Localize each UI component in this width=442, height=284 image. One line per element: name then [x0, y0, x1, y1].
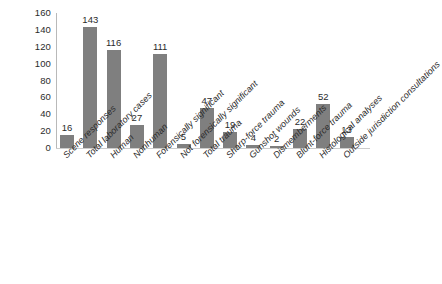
y-tick-label: 140	[0, 25, 51, 35]
y-tick-label: 80	[0, 76, 51, 86]
bar-group: 19	[223, 13, 237, 148]
bar-group: 52	[316, 13, 330, 148]
bar-group: 27	[130, 13, 144, 148]
bar-group: 22	[293, 13, 307, 148]
y-tick-label: 20	[0, 126, 51, 136]
bar[interactable]	[340, 137, 354, 148]
bar-value-label: 2	[274, 134, 279, 144]
bar[interactable]	[270, 146, 284, 148]
bar-value-label: 5	[181, 132, 186, 142]
bar-value-label: 143	[82, 15, 98, 25]
bar[interactable]	[107, 50, 121, 148]
bar-group: 13	[340, 13, 354, 148]
bar[interactable]	[153, 54, 167, 148]
bar[interactable]	[130, 125, 144, 148]
bar-value-label: 13	[341, 125, 352, 135]
y-tick-label: 100	[0, 59, 51, 69]
bar-value-label: 47	[202, 96, 213, 106]
y-tick-label: 160	[0, 8, 51, 18]
bar[interactable]	[223, 132, 237, 148]
bar[interactable]	[293, 129, 307, 148]
bar-value-label: 116	[106, 38, 121, 48]
y-tick-label: 0	[0, 143, 51, 153]
y-tick-label: 40	[0, 109, 51, 119]
bar-group: 116	[107, 13, 121, 148]
bar[interactable]	[246, 145, 260, 148]
bar[interactable]	[60, 135, 74, 149]
bar-group: 5	[177, 13, 191, 148]
bar-group: 2	[270, 13, 284, 148]
bar-group: 143	[83, 13, 97, 148]
y-tick-label: 60	[0, 92, 51, 102]
bar[interactable]	[200, 108, 214, 148]
bar-value-label: 52	[318, 92, 329, 102]
bar-value-label: 27	[132, 113, 143, 123]
y-tick-label: 120	[0, 42, 51, 52]
bar-value-label: 19	[225, 120, 236, 130]
bar[interactable]	[83, 27, 97, 148]
y-axis-tick-labels: 160140120100806040200	[0, 0, 51, 284]
bar-group: 47	[200, 13, 214, 148]
bar-value-label: 111	[153, 42, 167, 52]
bar-group: 4	[246, 13, 260, 148]
bar-value-label: 16	[62, 123, 73, 133]
bar[interactable]	[316, 104, 330, 148]
x-axis-line	[56, 148, 370, 149]
bar-group: 16	[60, 13, 74, 148]
bar[interactable]	[177, 144, 191, 148]
bar-value-label: 22	[295, 117, 306, 127]
plot-area: 16143116271115471942225213	[57, 13, 370, 148]
bar-value-label: 4	[251, 133, 256, 143]
bar-group: 111	[153, 13, 167, 148]
